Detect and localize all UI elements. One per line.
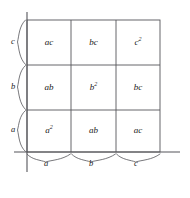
grid-cell-bc-middle-right-base: bc <box>134 82 143 92</box>
brace-left-a-label: a <box>11 124 15 134</box>
grid-cell-ac-bottom-right: ac <box>134 125 143 135</box>
grid-cell-ac-bottom-right-base: ac <box>134 125 143 135</box>
grid-cell-bc-top-middle-base: bc <box>89 37 98 47</box>
grid-cell-b2-middle-center: b2 <box>90 81 98 92</box>
brace-left-b <box>18 66 26 110</box>
figure-container: ac bc c2 ab b2 bc a2 ab ac c <box>0 0 190 198</box>
grid-cell-c2-top-right-exp: 2 <box>139 36 142 42</box>
grid-cell-ab-bottom-middle: ab <box>89 125 99 135</box>
brace-left-c <box>18 20 26 65</box>
grid-cell-c2-top-right: c2 <box>135 36 142 47</box>
brace-bottom-b-label: b <box>89 158 93 168</box>
grid-cell-a2-bottom-left: a2 <box>45 124 53 135</box>
brace-left-c-label: c <box>11 36 15 46</box>
grid-cell-bc-top-middle: bc <box>89 37 98 47</box>
grid-cell-ac-top-left-base: ac <box>45 37 54 47</box>
grid-cell-a2-bottom-left-exp: 2 <box>50 124 53 130</box>
grid-cell-b2-middle-center-exp: 2 <box>94 81 97 87</box>
brace-left-a <box>18 111 26 152</box>
brace-bottom-c <box>117 154 161 162</box>
grid-cell-ab-middle-left: ab <box>45 82 55 92</box>
grid-cell-ac-top-left: ac <box>45 37 54 47</box>
square-expansion-diagram: ac bc c2 ab b2 bc a2 ab ac c <box>0 0 190 198</box>
brace-bottom-a-label: a <box>44 158 48 168</box>
brace-bottom-c-label: c <box>134 158 138 168</box>
brace-bottom-b <box>72 154 116 162</box>
grid-cell-bc-middle-right: bc <box>134 82 143 92</box>
grid-cell-ab-middle-left-base: ab <box>45 82 55 92</box>
grid-cell-ab-bottom-middle-base: ab <box>89 125 99 135</box>
brace-bottom-a <box>27 154 71 162</box>
brace-left-b-label: b <box>11 81 15 91</box>
